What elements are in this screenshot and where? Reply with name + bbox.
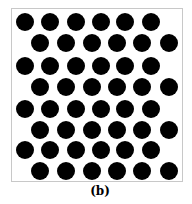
- figure-label: (b): [0, 184, 192, 198]
- dot: [57, 121, 75, 139]
- dot: [16, 57, 34, 75]
- dot: [83, 78, 101, 96]
- dot: [108, 34, 126, 52]
- dot: [160, 121, 178, 139]
- dot: [108, 78, 126, 96]
- dot: [57, 162, 75, 180]
- dot: [160, 162, 178, 180]
- dot: [108, 162, 126, 180]
- dot: [57, 78, 75, 96]
- dot: [16, 141, 34, 159]
- dot: [41, 100, 59, 118]
- dot: [41, 13, 59, 31]
- dot: [31, 78, 49, 96]
- dot: [41, 57, 59, 75]
- dot: [92, 141, 110, 159]
- dot: [67, 141, 85, 159]
- dot: [116, 141, 134, 159]
- dot: [67, 13, 85, 31]
- dot: [133, 121, 151, 139]
- dot: [67, 100, 85, 118]
- dot: [142, 13, 160, 31]
- dot: [16, 13, 34, 31]
- dot: [67, 57, 85, 75]
- dot: [31, 34, 49, 52]
- dot: [57, 34, 75, 52]
- dot: [31, 162, 49, 180]
- dot: [92, 13, 110, 31]
- dot: [41, 141, 59, 159]
- dot: [133, 78, 151, 96]
- dot: [133, 162, 151, 180]
- dot: [133, 34, 151, 52]
- dot: [31, 121, 49, 139]
- dot: [116, 100, 134, 118]
- dot: [16, 100, 34, 118]
- dot: [160, 34, 178, 52]
- dot: [142, 141, 160, 159]
- dot: [142, 100, 160, 118]
- dot: [116, 13, 134, 31]
- dot: [116, 57, 134, 75]
- dot: [160, 78, 178, 96]
- dot: [142, 57, 160, 75]
- dot: [83, 162, 101, 180]
- hexagonal-dot-array: [0, 0, 192, 204]
- dot: [92, 57, 110, 75]
- dot: [83, 34, 101, 52]
- dot: [83, 121, 101, 139]
- dot: [108, 121, 126, 139]
- dot: [92, 100, 110, 118]
